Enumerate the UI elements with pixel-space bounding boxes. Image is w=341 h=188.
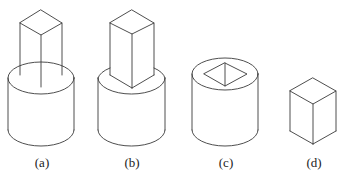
panel-c-drawing [192,58,258,146]
cylinder-b [98,68,165,146]
square-hole-c [204,63,247,86]
panel-b-drawing [98,10,165,146]
prism-d [290,78,336,144]
prism-b [110,10,154,88]
panel-a-label: (a) [27,156,57,170]
panel-d-drawing [290,78,336,144]
panel-a-drawing [8,10,74,146]
panel-b-label: (b) [117,156,147,170]
prism-a [20,10,62,87]
panel-d-label: (d) [299,156,329,170]
panel-c-label: (c) [211,156,241,170]
